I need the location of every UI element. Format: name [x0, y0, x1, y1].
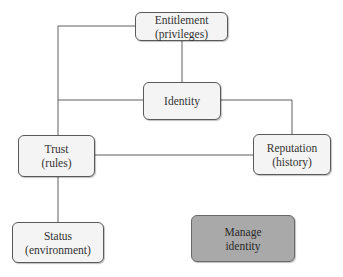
node-trust-title: Trust [45, 142, 69, 156]
node-reputation-subtitle: (history) [272, 155, 312, 169]
node-status-subtitle: (environment) [25, 243, 91, 257]
node-entitlement: Entitlement (privileges) [135, 12, 228, 41]
node-reputation-title: Reputation [267, 141, 317, 155]
edge-identity-reputation [221, 100, 292, 134]
node-manage-identity: Manage identity [191, 215, 295, 262]
node-manage-identity-line2: identity [225, 239, 260, 253]
node-reputation: Reputation (history) [253, 134, 331, 175]
node-trust: Trust (rules) [18, 135, 95, 177]
node-identity: Identity [143, 82, 221, 120]
node-entitlement-subtitle: (privileges) [155, 27, 208, 41]
edge-entitlement-trust [58, 26, 135, 135]
node-manage-identity-line1: Manage [224, 225, 261, 239]
node-entitlement-title: Entitlement [155, 13, 209, 27]
node-status: Status (environment) [12, 222, 104, 263]
node-identity-title: Identity [164, 94, 200, 108]
node-trust-subtitle: (rules) [41, 156, 71, 170]
node-status-title: Status [44, 229, 72, 243]
